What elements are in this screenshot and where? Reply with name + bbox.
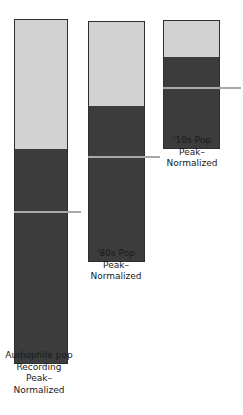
bar-label-80s-pop: '80s PopPeak–Normalized — [66, 248, 166, 283]
bar-label-line: Peak– — [0, 373, 86, 385]
bar-label-line: Peak– — [142, 147, 242, 159]
bar-label-line: Normalized — [0, 385, 86, 397]
bar-label-line: Peak– — [66, 260, 166, 272]
bar-segment-light-audiophile-pop — [15, 20, 67, 151]
bar-80s-pop[interactable] — [88, 21, 145, 262]
bar-segment-light-80s-pop — [89, 22, 144, 108]
bar-audiophile-pop[interactable] — [14, 19, 68, 364]
average-level-marker-10s-pop — [163, 87, 241, 89]
bar-label-line: Recording — [0, 362, 86, 374]
bar-segment-dark-80s-pop — [89, 106, 144, 261]
bar-label-line: '80s Pop — [66, 248, 166, 260]
bar-10s-pop[interactable] — [163, 20, 220, 149]
bar-chart: Audiophile popRecordingPeak–Normalized '… — [0, 0, 243, 415]
bar-segment-dark-audiophile-pop — [15, 149, 67, 363]
bar-label-audiophile-pop: Audiophile popRecordingPeak–Normalized — [0, 350, 86, 396]
bar-label-line: Normalized — [66, 271, 166, 283]
average-level-marker-audiophile-pop — [14, 211, 81, 213]
bar-label-line: Normalized — [142, 158, 242, 170]
bar-label-10s-pop: '10s PopPeak–Normalized — [142, 135, 242, 170]
bar-label-line: '10s Pop — [142, 135, 242, 147]
bar-segment-light-10s-pop — [164, 21, 219, 59]
bar-label-line: Audiophile pop — [0, 350, 86, 362]
